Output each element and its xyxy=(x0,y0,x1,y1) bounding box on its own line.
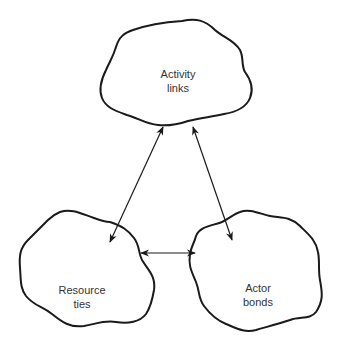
actor-label-line1: Actor xyxy=(245,282,271,294)
activity-label-line1: Activity xyxy=(161,68,196,80)
actor-bonds-node: Actor bonds xyxy=(189,211,321,331)
relationship-diagram: Activity links Resource ties Actor bonds xyxy=(0,0,339,350)
actor-label-line2: bonds xyxy=(243,296,273,308)
resource-ties-node: Resource ties xyxy=(20,211,155,327)
activity-actor-arrow xyxy=(193,127,232,240)
resource-label-line2: ties xyxy=(73,298,91,310)
activity-resource-arrow xyxy=(110,127,163,242)
activity-label-line2: links xyxy=(167,82,190,94)
actor-bonds-cloud-shape xyxy=(189,211,321,331)
activity-links-node: Activity links xyxy=(100,20,251,126)
resource-label-line1: Resource xyxy=(58,284,105,296)
